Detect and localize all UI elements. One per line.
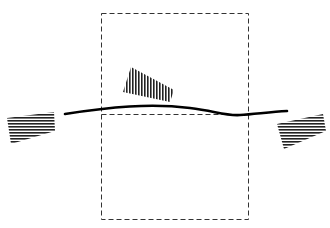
- right-hatched-block: [277, 114, 326, 149]
- top-hatched-block: [123, 67, 174, 102]
- dashed-region: [102, 14, 249, 220]
- left-hatched-block: [7, 112, 55, 144]
- diagram-canvas: [0, 0, 330, 228]
- dashed-rectangle-outline: [102, 14, 249, 220]
- main-curve: [65, 106, 287, 115]
